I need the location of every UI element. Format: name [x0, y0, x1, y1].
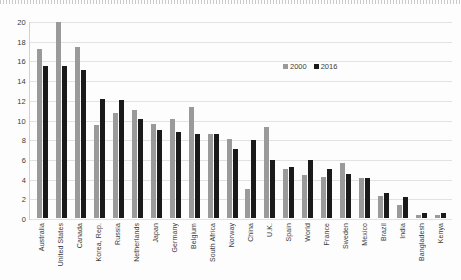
bar-group — [431, 22, 450, 218]
bar-2016 — [176, 132, 181, 218]
bar-2000 — [245, 189, 250, 218]
bar-2000 — [151, 124, 156, 218]
bar-2016 — [441, 213, 446, 218]
y-axis-tick-label: 12 — [17, 96, 26, 105]
x-axis-tick-label: Japan — [152, 223, 159, 243]
y-axis-tick-label: 14 — [17, 77, 26, 86]
x-axis-tick-label: Kenya — [437, 223, 444, 243]
bar-group — [52, 22, 71, 218]
bar-group — [71, 22, 90, 218]
legend-item-2016: 2016 — [314, 62, 338, 71]
y-axis-tick-label: 0 — [22, 215, 26, 224]
bar-group — [298, 22, 317, 218]
bar-2000 — [227, 139, 232, 218]
bar-chart: 02468101214161820 AustraliaUnited States… — [0, 0, 461, 280]
bar-2000 — [378, 196, 383, 218]
x-axis-label-cell: Mexico — [355, 223, 374, 279]
x-axis-label-cell: Belgium — [184, 223, 203, 279]
bar-2000 — [208, 134, 213, 218]
x-axis-label-cell: Australia — [32, 223, 51, 279]
gridline — [30, 219, 452, 220]
bar-2000 — [435, 215, 440, 218]
x-axis-label-cell: Sweden — [336, 223, 355, 279]
bar-group — [393, 22, 412, 218]
bar-2016 — [119, 100, 124, 218]
legend-swatch-icon-2000 — [283, 64, 288, 69]
x-axis-tick-label: Brazil — [380, 223, 387, 241]
x-axis-label-cell: Kenya — [431, 223, 450, 279]
x-axis-label-cell: Netherlands — [127, 223, 146, 279]
bar-2016 — [138, 119, 143, 218]
x-axis-tick-label: Germany — [171, 223, 178, 253]
x-axis-label-cell: World — [298, 223, 317, 279]
bar-2016 — [365, 178, 370, 218]
bar-2016 — [270, 160, 275, 218]
y-axis-tick-label: 10 — [17, 116, 26, 125]
y-axis-tick-label: 2 — [22, 195, 26, 204]
bar-2000 — [321, 177, 326, 218]
y-axis-tick-label: 16 — [17, 57, 26, 66]
bar-2016 — [403, 197, 408, 218]
bar-group — [90, 22, 109, 218]
plot-area: 02468101214161820 — [29, 22, 452, 220]
x-axis-tick-label: Korea, Rep. — [95, 223, 102, 261]
x-axis-tick-label: U.K. — [266, 223, 273, 237]
bar-group — [317, 22, 336, 218]
y-axis-tick-label: 20 — [17, 18, 26, 27]
x-axis-label-cell: Spain — [279, 223, 298, 279]
bar-2016 — [100, 99, 105, 218]
legend-swatch-icon-2016 — [314, 64, 319, 69]
x-axis-label-cell: Korea, Rep. — [89, 223, 108, 279]
x-axis-tick-label: Belgium — [190, 223, 197, 249]
bar-group — [260, 22, 279, 218]
bar-2000 — [302, 175, 307, 218]
y-axis-tick-label: 8 — [22, 136, 26, 145]
bar-2000 — [132, 110, 137, 218]
x-axis-tick-label: Bangladesh — [418, 223, 425, 261]
x-axis-label-cell: China — [241, 223, 260, 279]
bar-group — [336, 22, 355, 218]
x-axis-label-cell: Canada — [70, 223, 89, 279]
x-axis-label-cell: Brazil — [374, 223, 393, 279]
y-axis-tick-label: 4 — [22, 175, 26, 184]
bar-2016 — [327, 169, 332, 218]
bar-2000 — [264, 127, 269, 218]
x-axis-label-cell: Japan — [146, 223, 165, 279]
bar-group — [33, 22, 52, 218]
bar-group — [374, 22, 393, 218]
bar-2000 — [397, 205, 402, 218]
bar-2000 — [37, 49, 42, 218]
bar-2016 — [251, 140, 256, 218]
x-axis-tick-label: Canada — [76, 223, 83, 248]
bar-2016 — [81, 70, 86, 218]
x-axis-tick-label: Norway — [228, 223, 235, 247]
bar-group — [241, 22, 260, 218]
bar-2016 — [422, 213, 427, 218]
bar-group — [223, 22, 242, 218]
bar-2016 — [214, 134, 219, 218]
legend-label-2000: 2000 — [290, 62, 307, 71]
bar-group — [355, 22, 374, 218]
x-axis-tick-label: Mexico — [361, 223, 368, 246]
x-axis-tick-label: South Africa — [209, 223, 216, 262]
x-axis-tick-label: Australia — [38, 223, 45, 251]
x-axis-tick-label: Sweden — [342, 223, 349, 249]
x-axis-label-cell: France — [317, 223, 336, 279]
bar-group — [412, 22, 431, 218]
legend-item-2000: 2000 — [283, 62, 307, 71]
x-axis-tick-label: France — [323, 223, 330, 245]
bar-2000 — [283, 169, 288, 218]
x-axis-labels: AustraliaUnited StatesCanadaKorea, Rep.R… — [30, 223, 452, 279]
top-border-artifact — [0, 0, 461, 4]
bar-2000 — [56, 22, 61, 218]
bar-2016 — [157, 130, 162, 218]
x-axis-tick-label: Spain — [285, 223, 292, 241]
bar-2000 — [170, 119, 175, 218]
bar-group — [185, 22, 204, 218]
bar-group — [128, 22, 147, 218]
y-axis-tick-label: 18 — [17, 37, 26, 46]
bar-2016 — [289, 167, 294, 218]
bar-2016 — [308, 160, 313, 218]
bar-group — [147, 22, 166, 218]
legend-label-2016: 2016 — [321, 62, 338, 71]
